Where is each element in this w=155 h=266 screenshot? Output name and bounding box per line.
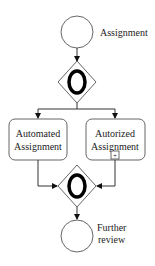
split-gateway[interactable] (58, 61, 96, 103)
task-autorized-assignment[interactable]: Autorized Assignment + (86, 119, 145, 160)
task-label-line2: Assignment (14, 141, 62, 152)
task-label-line2: Assignment (91, 141, 139, 152)
join-gateway[interactable] (58, 165, 96, 207)
task-label-line1: Autorized (95, 128, 135, 139)
subprocess-expand-icon[interactable]: + (111, 151, 119, 160)
flow-split-to-tasks (38, 103, 115, 118)
end-event-label-line2: review (98, 234, 126, 245)
end-event[interactable] (61, 220, 93, 252)
bpmn-diagram: Assignment Automated Assignment Autorize… (0, 0, 155, 266)
subprocess-marker: + (113, 152, 117, 160)
start-event[interactable] (61, 16, 93, 48)
start-event-label: Assignment (100, 27, 148, 38)
end-event-label-line1: Further (97, 222, 127, 233)
task-automated-assignment[interactable]: Automated Assignment (9, 119, 67, 160)
task-label-line1: Automated (16, 128, 60, 139)
